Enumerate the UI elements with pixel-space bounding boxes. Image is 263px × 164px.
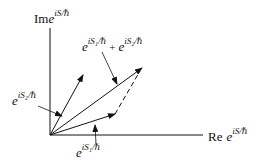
- real-axis-label: Re eiS/ℏ: [208, 128, 248, 144]
- phasor-sum-label: eiS₁/ℏ+eiS₂/ℏ: [82, 38, 143, 54]
- phasor-1-label: eiS₁/ℏ: [76, 144, 100, 160]
- phasor-2-label: eiS₂/ℏ: [12, 92, 36, 108]
- phasor-sum-arrow: [50, 68, 142, 135]
- pointer-sum: [102, 52, 117, 84]
- imaginary-axis-label: ImeiS/ℏ: [34, 10, 70, 26]
- dashed-parallelogram-edge: [115, 71, 140, 114]
